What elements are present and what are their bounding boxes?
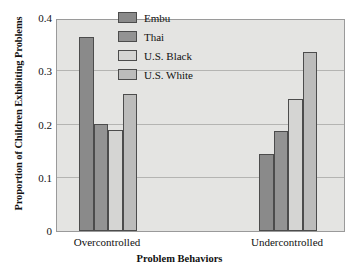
bar (274, 131, 289, 231)
legend-label: Embu (144, 12, 170, 24)
legend-item: Embu (118, 8, 250, 27)
y-tick-label: 0 (18, 226, 52, 237)
legend-swatch-icon (118, 50, 137, 61)
x-axis-tick-labels: OvercontrolledUndercontrolled (56, 236, 345, 252)
legend-label: U.S. Black (144, 50, 192, 62)
bar-chart-figure: Proportion of Children Exhibiting Proble… (0, 0, 359, 271)
y-tick-label: 0.4 (18, 13, 52, 24)
x-axis-title: Problem Behaviors (0, 253, 359, 264)
legend-label: U.S. White (144, 69, 193, 81)
y-tick-label: 0.2 (18, 120, 52, 131)
bar (94, 124, 109, 231)
legend-label: Thai (144, 31, 164, 43)
legend-item: U.S. Black (118, 46, 250, 65)
legend-swatch-icon (118, 69, 137, 80)
legend-swatch-icon (118, 31, 137, 42)
y-axis-tick-labels: 00.10.20.30.4 (18, 0, 52, 271)
legend-swatch-icon (118, 12, 137, 23)
bar (303, 52, 318, 231)
x-tick-label: Overcontrolled (74, 236, 141, 248)
x-tick-label: Undercontrolled (251, 236, 323, 248)
bar (123, 94, 138, 231)
y-tick-label: 0.3 (18, 66, 52, 77)
chart-legend: EmbuThaiU.S. BlackU.S. White (118, 8, 250, 84)
legend-item: U.S. White (118, 65, 250, 84)
legend-item: Thai (118, 27, 250, 46)
bar (79, 37, 94, 231)
y-tick-label: 0.1 (18, 173, 52, 184)
bar (108, 130, 123, 231)
bar (259, 154, 274, 231)
bar (288, 99, 303, 231)
